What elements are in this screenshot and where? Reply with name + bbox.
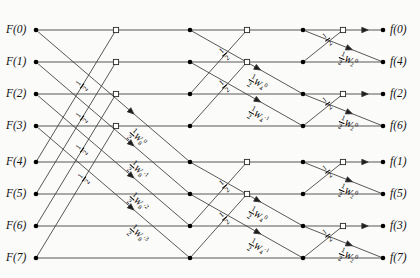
- stage1-output-node: [188, 224, 193, 229]
- output-node: [381, 124, 386, 129]
- input-node: [34, 92, 39, 97]
- stage3-sum-node: [340, 223, 345, 228]
- input-node: [34, 160, 39, 165]
- flow-graph-svg: [0, 0, 420, 278]
- stage2-sum-node: [244, 159, 249, 164]
- flow-edge: [36, 126, 190, 258]
- output-label-6: f(3): [390, 219, 407, 231]
- input-node: [34, 224, 39, 229]
- input-node: [34, 192, 39, 197]
- output-label-4: f(1): [390, 155, 407, 167]
- stage1-output-node: [188, 28, 193, 33]
- output-label-7: f(7): [390, 251, 407, 263]
- stage1-output-node: [188, 60, 193, 65]
- edge-arrow: [362, 223, 368, 228]
- input-node: [34, 28, 39, 33]
- output-label-1: f(4): [390, 55, 407, 67]
- stage3-sum-node: [340, 91, 345, 96]
- input-label-3: F(3): [6, 119, 26, 131]
- stage1-sum-node: [113, 59, 118, 64]
- input-label-0: F(0): [6, 23, 26, 35]
- stage2-output-node: [301, 224, 306, 229]
- flow-edge: [36, 94, 190, 226]
- stage1-sum-node: [113, 91, 118, 96]
- output-label-5: f(5): [390, 187, 407, 199]
- stage1-output-node: [188, 124, 193, 129]
- input-label-4: F(4): [6, 155, 26, 167]
- output-node: [381, 160, 386, 165]
- stage2-sum-node: [244, 27, 249, 32]
- edge-layer: [36, 27, 383, 258]
- stage2-output-node: [301, 160, 306, 165]
- output-node: [381, 28, 386, 33]
- stage3-sum-node: [340, 159, 345, 164]
- input-label-5: F(5): [6, 187, 26, 199]
- input-label-6: F(6): [6, 219, 26, 231]
- stage1-sum-node: [113, 123, 118, 128]
- stage2-output-node: [301, 124, 306, 129]
- stage1-output-node: [188, 92, 193, 97]
- edge-arrow: [362, 27, 368, 32]
- output-node: [381, 60, 386, 65]
- stage2-output-node: [301, 60, 306, 65]
- edge-arrow: [362, 91, 368, 96]
- output-label-0: f(0): [390, 23, 407, 35]
- stage3-sum-node: [340, 27, 345, 32]
- input-node: [34, 124, 39, 129]
- output-label-3: f(6): [390, 119, 407, 131]
- edge-arrow: [362, 159, 368, 164]
- stage2-output-node: [301, 192, 306, 197]
- input-label-7: F(7): [6, 251, 26, 263]
- input-label-1: F(1): [6, 55, 26, 67]
- input-node: [34, 60, 39, 65]
- input-node: [34, 256, 39, 261]
- fft-flow-graph-canvas: F(0) F(1) F(2) F(3) F(4) F(5) F(6) F(7) …: [0, 0, 420, 278]
- output-label-2: f(2): [390, 87, 407, 99]
- stage2-output-node: [301, 92, 306, 97]
- output-node: [381, 92, 386, 97]
- stage2-sum-node: [244, 191, 249, 196]
- output-node: [381, 224, 386, 229]
- stage2-sum-node: [244, 59, 249, 64]
- stage1-output-node: [188, 160, 193, 165]
- stage2-output-node: [301, 256, 306, 261]
- stage1-output-node: [188, 192, 193, 197]
- stage1-sum-node: [113, 27, 118, 32]
- input-label-2: F(2): [6, 87, 26, 99]
- stage1-output-node: [188, 256, 193, 261]
- output-node: [381, 256, 386, 261]
- stage2-output-node: [301, 28, 306, 33]
- output-node: [381, 192, 386, 197]
